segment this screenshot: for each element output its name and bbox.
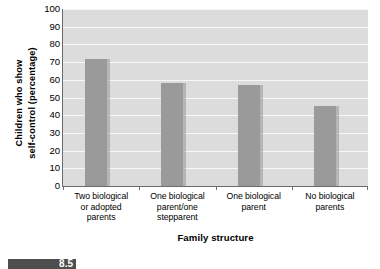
bar-slot [292,9,368,186]
x-axis-tick-label: One biologicalparent [212,191,296,212]
y-axis-title-line-1: Children who show [13,13,26,193]
bar-chart-figure: Children who show self-control (percenta… [0,0,380,269]
x-axis-tick-label-line: or adopted [59,202,143,213]
x-axis-tick-mark [292,186,293,190]
figure-number-text: 8.5 [59,259,73,269]
y-axis-tick-label: 10 [34,163,60,173]
x-axis-tick-label-line: One biological [135,191,219,202]
x-axis-title: Family structure [63,232,368,243]
bar [238,85,260,186]
bar [161,83,183,186]
x-axis-tick-label-line: parents [59,212,143,223]
x-axis-tick-marks [63,186,368,190]
x-axis-tick-label-line: parent/one [135,202,219,213]
y-axis-tick-label: 90 [34,22,60,32]
x-axis-tick-label: One biologicalparent/onestepparent [135,191,219,223]
y-axis-tick-label: 80 [34,39,60,49]
y-axis-tick-label: 40 [34,110,60,120]
y-axis-tick-label: 30 [34,128,60,138]
x-axis-tick-label-line: One biological [212,191,296,202]
x-axis-tick-mark [367,186,368,190]
plot-area [63,9,368,186]
y-axis-tick-label: 60 [34,75,60,85]
x-axis-tick-label-line: Two biological [59,191,143,202]
x-axis-tick-mark [63,186,64,190]
y-axis-tick-label: 0 [34,181,60,191]
bar [314,106,336,186]
x-axis-tick-labels: Two biologicalor adoptedparentsOne biolo… [63,191,368,227]
bar-slot [139,9,215,186]
x-axis-tick-label-line: parents [288,202,372,213]
bar-series [63,9,368,186]
bar-slot [216,9,292,186]
y-axis-tick-label: 20 [34,146,60,156]
x-axis-tick-label: No biologicalparents [288,191,372,212]
bar-slot [63,9,139,186]
x-axis-tick-mark [139,186,140,190]
x-axis-tick-mark [216,186,217,190]
x-axis-tick-label-line: stepparent [135,212,219,223]
x-axis-tick-label-line: No biological [288,191,372,202]
bar [85,59,107,186]
x-axis-tick-label: Two biologicalor adoptedparents [59,191,143,223]
y-axis-tick-label: 100 [34,4,60,14]
y-axis-tick-label: 70 [34,57,60,67]
y-axis-tick-label: 50 [34,93,60,103]
x-axis-tick-label-line: parent [212,202,296,213]
y-axis-tick-labels: 0102030405060708090100 [34,9,60,186]
figure-number-banner: 8.5 [8,259,76,269]
